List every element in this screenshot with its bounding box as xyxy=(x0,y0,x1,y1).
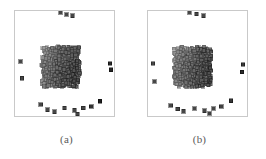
figure-scatter-pair: (a) (b) xyxy=(0,0,266,159)
panel-a: (a) xyxy=(0,0,133,159)
panel-caption-a: (a) xyxy=(0,132,133,146)
panel-caption-b: (b) xyxy=(133,132,266,146)
panel-b: (b) xyxy=(133,0,266,159)
scatter-plot-a xyxy=(15,11,114,116)
plot-frame-a xyxy=(14,10,115,117)
scatter-plot-b xyxy=(148,11,247,116)
plot-frame-b xyxy=(147,10,248,117)
